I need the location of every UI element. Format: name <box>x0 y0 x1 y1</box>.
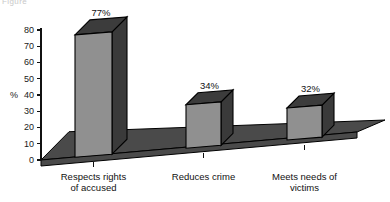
y-tick-label-30: 30 <box>24 106 34 116</box>
y-axis-ticks: 01020304050607080 <box>24 25 41 165</box>
category-label-3-line-2: victims <box>290 182 319 193</box>
category-label-2-line-1: Reduces crime <box>172 171 235 182</box>
bar-2[interactable] <box>186 90 233 148</box>
bar-3-front-face <box>287 105 322 140</box>
y-tick-label-60: 60 <box>24 57 34 67</box>
y-tick-label-50: 50 <box>24 74 34 84</box>
y-tick-label-10: 10 <box>24 139 34 149</box>
y-tick-label-80: 80 <box>24 25 34 35</box>
y-tick-label-0: 0 <box>29 155 34 165</box>
category-label-3-line-1: Meets needs of <box>272 171 337 182</box>
bar-2-front-face <box>186 102 221 148</box>
y-axis: 01020304050607080 % <box>10 25 41 165</box>
category-label-1-line-2: of accused <box>71 182 117 193</box>
value-label-3: 32% <box>301 83 321 94</box>
y-axis-unit-label: % <box>10 90 18 100</box>
value-label-2: 34% <box>200 80 220 91</box>
chart-container: Figure 01020304050607080 % 77%34%32% Res… <box>0 0 390 202</box>
category-label-1-line-1: Respects rights <box>61 171 127 182</box>
bar-chart-3d: 01020304050607080 % 77%34%32% Respects r… <box>0 0 390 202</box>
bar-3[interactable] <box>287 93 334 140</box>
bar-1[interactable] <box>75 17 127 157</box>
category-labels-group: Respects rightsof accusedReduces crimeMe… <box>61 171 338 193</box>
y-tick-label-40: 40 <box>24 90 34 100</box>
bar-1-side-face <box>112 17 127 154</box>
y-tick-label-70: 70 <box>24 41 34 51</box>
y-tick-label-20: 20 <box>24 122 34 132</box>
bar-1-front-face <box>75 32 112 157</box>
value-label-1: 77% <box>91 7 111 18</box>
